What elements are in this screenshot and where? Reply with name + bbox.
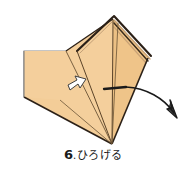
caption-row: 6 . ひろげる xyxy=(0,146,186,170)
step-number: 6 xyxy=(64,147,73,162)
origami-diagram-svg xyxy=(0,0,186,146)
figure-panel xyxy=(0,0,186,146)
step-instruction-text: ひろげる xyxy=(77,146,122,162)
caption: 6 . ひろげる xyxy=(64,146,122,162)
